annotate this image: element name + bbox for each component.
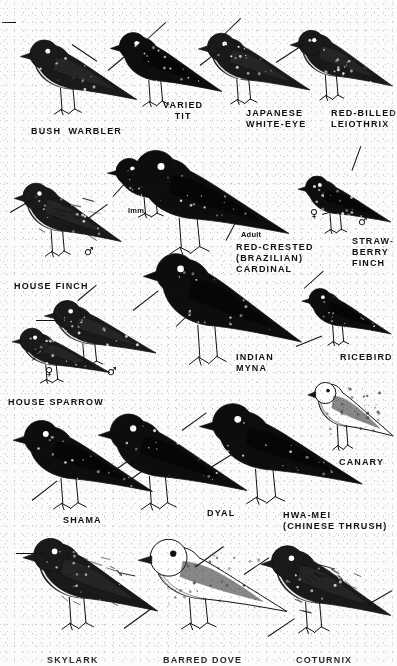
bird-label-red-billed-leiothrix: RED-BILLED LEIOTHRIX [331,108,397,130]
bird-illustration-red-billed-leiothrix [288,16,397,116]
bird-label-bush-warbler: BUSH WARBLER [31,126,122,137]
bird-label-japanese-white-eye: JAPANESE WHITE-EYE [246,108,306,130]
bird-label-coturnix: COTURNIX [296,655,352,666]
bird-identification-plate: ♂♀♂♀♂ BUSH WARBLERVARIED TITJAPANESE WHI… [0,0,397,666]
bird-label-varied-tit: VARIED TIT [163,100,203,122]
sex-symbol-strawberry-finch-female: ♀ [310,208,318,219]
sex-symbol-house-sparrow-female: ♀ [45,366,53,377]
leader-skylark [16,553,46,554]
bird-label-skylark: SKYLARK [47,655,99,666]
bird-label-dyal: DYAL [207,508,235,519]
bird-illustration-ricebird [300,278,396,358]
bird-label-canary: CANARY [339,457,384,468]
bird-illustration-coturnix [258,528,397,653]
sex-symbol-house-finch-male: ♂ [84,246,94,257]
bird-label-hwa-mei: HWA-MEI (CHINESE THRUSH) [283,510,387,532]
bird-label-adult: Adult [241,229,261,240]
bird-label-red-crested-cardinal: RED-CRESTED (BRAZILIAN) CARDINAL [236,242,314,275]
bird-illustration-strawberry-finch [296,166,396,246]
bird-label-house-finch: HOUSE FINCH [14,281,89,292]
bird-label-barred-dove: BARRED DOVE [163,655,242,666]
bird-label-indian-myna: INDIAN MYNA [236,352,274,374]
bird-label-shama: SHAMA [63,515,102,526]
bird-label-house-sparrow: HOUSE SPARROW [8,397,104,408]
bird-label-ricebird: RICEBIRD [340,352,393,363]
sex-symbol-strawberry-finch-male: ♂ [358,216,368,227]
bird-label-strawberry-finch: STRAW- BERRY FINCH [352,236,394,269]
leader-bush-warbler-2 [2,22,16,23]
bird-illustration-canary [306,366,397,466]
leader-sparrow-2 [36,320,64,321]
sex-symbol-house-sparrow-male: ♂ [107,366,117,377]
bird-label-imm: Imm. [128,205,146,216]
